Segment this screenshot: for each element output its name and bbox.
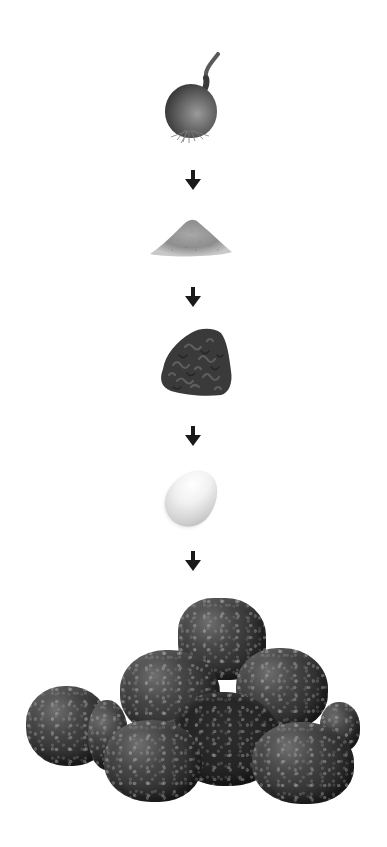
recipe-flow-diagram (0, 0, 387, 847)
egg-icon (155, 460, 229, 537)
arrow-down-icon (185, 170, 201, 190)
meatballs-icon (20, 592, 370, 824)
arrow-down-icon (185, 426, 201, 446)
onion-icon (150, 40, 240, 150)
powder-pile-icon (148, 212, 234, 258)
meatball (104, 720, 202, 802)
ground-meat-icon (155, 325, 235, 399)
arrow-down-icon (185, 287, 201, 307)
meatball (252, 722, 354, 804)
arrow-down-icon (185, 551, 201, 571)
